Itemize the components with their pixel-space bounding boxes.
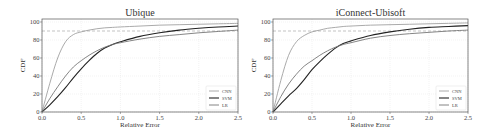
x-tick-label: 0.5 — [308, 114, 316, 121]
y-tick-label: 80 — [33, 36, 40, 43]
x-tick-label: 1.5 — [156, 114, 164, 121]
y-tick-label: 100 — [30, 18, 40, 25]
x-tick-label: 1.0 — [347, 114, 355, 121]
x-axis-label: Relative Error — [120, 121, 161, 129]
legend-label-cnn: CNN — [452, 89, 462, 94]
y-tick-label: 80 — [264, 36, 271, 43]
x-axis-label: Relative Error — [351, 121, 392, 129]
x-tick-label: 0.0 — [269, 114, 277, 121]
x-tick-label: 0.5 — [77, 114, 85, 121]
x-tick-label: 2.5 — [234, 114, 242, 121]
x-tick-label: 2.0 — [425, 114, 433, 121]
y-tick-label: 20 — [33, 90, 40, 97]
y-tick-label: 60 — [33, 54, 40, 61]
y-axis-label: CDF — [19, 59, 27, 73]
chart-title: iConnect-Ubisoft — [336, 7, 406, 18]
x-tick-label: 1.5 — [386, 114, 394, 121]
legend-label-cnn: CNN — [222, 89, 232, 94]
chart-title: Ubique — [125, 7, 155, 18]
chart-2: iConnect-Ubisoft0204060801000.00.51.01.5… — [250, 7, 472, 129]
y-axis-label: CDF — [250, 59, 258, 73]
figure: Ubique0204060801000.00.51.01.52.02.5Rela… — [0, 0, 488, 135]
y-tick-label: 60 — [264, 54, 271, 61]
y-tick-label: 40 — [33, 72, 40, 79]
legend-label-svm: SVM — [452, 96, 462, 101]
x-tick-label: 2.5 — [464, 114, 472, 121]
x-tick-label: 0.0 — [38, 114, 46, 121]
x-tick-label: 1.0 — [116, 114, 124, 121]
y-tick-label: 40 — [264, 72, 271, 79]
legend-label-lr: LR — [452, 103, 458, 108]
chart-canvas: Ubique0204060801000.00.51.01.52.02.5Rela… — [0, 0, 488, 135]
legend: CNNSVMLR — [206, 86, 236, 110]
legend-label-lr: LR — [222, 103, 228, 108]
y-tick-label: 100 — [261, 18, 271, 25]
legend-label-svm: SVM — [222, 96, 232, 101]
chart-1: Ubique0204060801000.00.51.01.52.02.5Rela… — [19, 7, 242, 129]
y-tick-label: 20 — [264, 90, 271, 97]
x-tick-label: 2.0 — [195, 114, 203, 121]
legend: CNNSVMLR — [436, 86, 466, 110]
